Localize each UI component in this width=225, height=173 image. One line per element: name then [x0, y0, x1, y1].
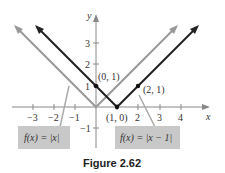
- y-tick-label: −1: [80, 123, 91, 134]
- callout-leader-right: [139, 95, 155, 127]
- x-tick-label: 2: [135, 112, 140, 123]
- point-label: (2, 1): [143, 84, 165, 96]
- legend-box-left: f(x) = |x|: [18, 126, 70, 149]
- point-label: (1, 0): [106, 112, 128, 124]
- point-0-1: [94, 84, 98, 88]
- x-tick-label: 4: [178, 112, 183, 123]
- x-tick-label: −2: [48, 112, 59, 123]
- y-tick-label: 3: [85, 38, 90, 49]
- graph: −3 −2 −1 2 3 4 x 3 2 1 −1 y (0, 1) (1, 0…: [0, 0, 225, 173]
- point-2-1: [136, 84, 140, 88]
- point-label: (0, 1): [98, 71, 120, 83]
- svg-text:f(x) = |x − 1|: f(x) = |x − 1|: [120, 132, 172, 144]
- x-axis-label: x: [205, 111, 211, 122]
- y-tick-label: 2: [85, 59, 90, 70]
- figure-caption: Figure 2.62: [83, 157, 141, 169]
- x-tick-label: −3: [27, 112, 38, 123]
- legend-box-right: f(x) = |x − 1|: [115, 126, 180, 149]
- svg-text:f(x) = |x|: f(x) = |x|: [24, 132, 60, 144]
- series-abs-x-minus-1: [35, 25, 199, 107]
- x-tick-label: 3: [157, 112, 162, 123]
- point-1-0: [115, 105, 119, 109]
- y-tick-label: 1: [85, 81, 90, 92]
- x-tick-label: −1: [69, 112, 80, 123]
- x-axis: [12, 104, 210, 110]
- y-axis-label: y: [86, 10, 92, 21]
